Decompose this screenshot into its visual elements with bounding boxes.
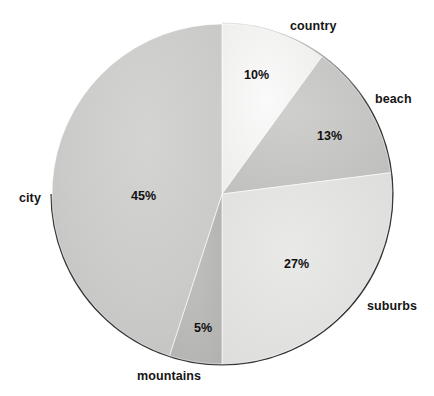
- pie-label-mountains: mountains: [137, 369, 201, 383]
- pie-label-country: country: [290, 19, 337, 33]
- pie-value-city: 45%: [131, 189, 156, 203]
- pie-value-beach: 13%: [317, 129, 342, 143]
- pie-label-suburbs: suburbs: [367, 299, 417, 313]
- pie-label-city: city: [19, 191, 41, 205]
- pie-chart-svg: [0, 0, 434, 396]
- pie-value-country: 10%: [244, 68, 269, 82]
- pie-chart: country beach suburbs mountains city 10%…: [0, 0, 434, 396]
- pie-label-beach: beach: [375, 92, 412, 106]
- chart-page: country beach suburbs mountains city 10%…: [0, 0, 434, 396]
- pie-value-mountains: 5%: [194, 321, 212, 335]
- pie-value-suburbs: 27%: [284, 257, 309, 271]
